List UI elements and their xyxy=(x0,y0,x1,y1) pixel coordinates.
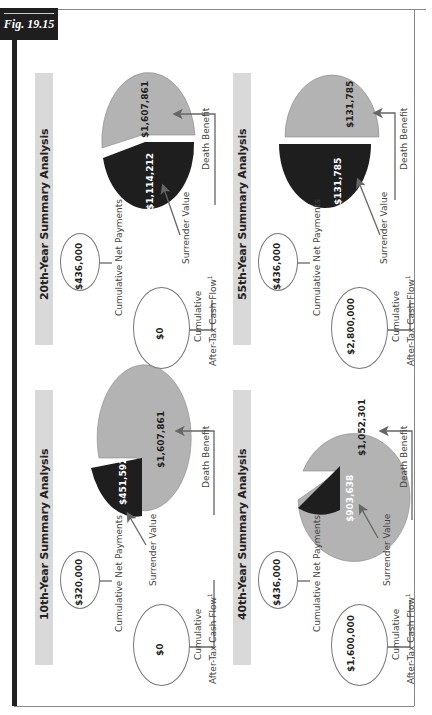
value-death-benefit-20th: $1,607,861 xyxy=(140,81,150,138)
label-after-tax-line2-20th: After-Tax Cash Flow1 xyxy=(204,275,219,366)
label-after-tax-line1-20th: Cumulative xyxy=(193,291,204,342)
title-20th: 20th-Year Summary Analysis xyxy=(38,129,51,300)
label-surrender-40th: Surrender Value xyxy=(382,514,393,586)
label-surrender-20th: Surrender Value xyxy=(181,192,192,264)
value-net-payments-20th: $436,000 xyxy=(74,243,84,290)
title-40th: 40th-Year Summary Analysis xyxy=(236,449,249,620)
label-after-tax-line2-40th: After-Tax Cash Flow1 xyxy=(402,593,417,684)
value-net-payments-40th: $436,000 xyxy=(272,559,282,606)
label-net-payments-40th: Cumulative Net Payments xyxy=(312,515,323,632)
label-surrender-55th: Surrender Value xyxy=(379,192,390,264)
value-surrender-55th: $131,785 xyxy=(333,158,343,205)
label-death-benefit-40th: Death Benefit xyxy=(399,426,410,488)
label-after-tax-line2-10th: After-Tax Cash Flow1 xyxy=(204,593,219,684)
pie-slice-surrender-55 xyxy=(279,144,371,208)
value-after-tax-10th: $0 xyxy=(155,643,165,656)
value-death-benefit-40th: $1,052,301 xyxy=(357,399,367,456)
label-net-payments-10th: Cumulative Net Payments xyxy=(114,515,125,632)
value-net-payments-55th: $436,000 xyxy=(272,243,282,290)
label-death-benefit-10th: Death Benefit xyxy=(201,426,212,488)
value-after-tax-55th: $2,800,000 xyxy=(346,298,356,355)
value-after-tax-40th: $1,600,000 xyxy=(346,615,356,672)
pie-slice-surrender-10 xyxy=(91,458,142,517)
title-10th: 10th-Year Summary Analysis xyxy=(38,449,51,620)
label-after-tax-line1-55th: Cumulative xyxy=(391,291,402,342)
value-after-tax-20th: $0 xyxy=(155,327,165,340)
value-surrender-10th: $451,592 xyxy=(118,458,128,505)
after-tax-ellipse-55th xyxy=(331,287,388,369)
value-surrender-40th: $903,638 xyxy=(345,475,355,522)
value-net-payments-10th: $320,000 xyxy=(74,559,84,606)
label-net-payments-20th: Cumulative Net Payments xyxy=(114,199,125,316)
label-after-tax-line1-10th: Cumulative xyxy=(193,609,204,660)
value-surrender-20th: $1,114,212 xyxy=(145,153,155,210)
label-net-payments-55th: Cumulative Net Payments xyxy=(312,199,323,316)
title-55th: 55th-Year Summary Analysis xyxy=(236,129,249,300)
pie-slice-surrender-40 xyxy=(298,466,340,515)
value-death-benefit-10th: $1,607,861 xyxy=(156,411,166,468)
label-after-tax-line2-55th: After-Tax Cash Flow1 xyxy=(402,275,417,366)
value-death-benefit-55th: $131,785 xyxy=(345,81,355,128)
after-tax-ellipse-40th xyxy=(331,604,388,686)
label-death-benefit-55th: Death Benefit xyxy=(399,108,410,170)
pie-slice-death-benefit-55 xyxy=(285,75,379,137)
label-after-tax-line1-40th: Cumulative xyxy=(391,609,402,660)
label-death-benefit-20th: Death Benefit xyxy=(201,108,212,170)
label-surrender-10th: Surrender Value xyxy=(148,514,159,586)
